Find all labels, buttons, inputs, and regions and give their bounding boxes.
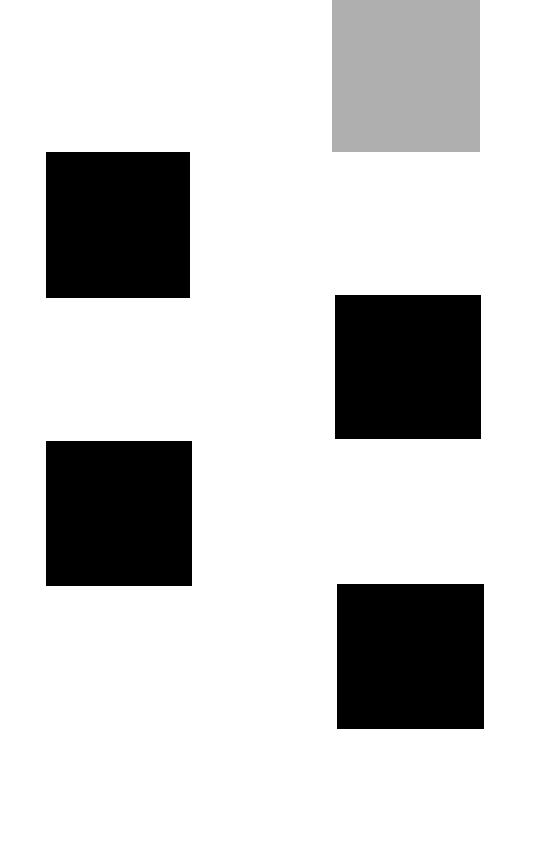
image-tile-2[interactable] [46, 152, 190, 298]
image-tile-5[interactable] [337, 584, 484, 729]
image-grid [0, 0, 536, 848]
image-tile-3[interactable] [335, 295, 481, 439]
image-tile-1[interactable] [332, 0, 480, 152]
image-tile-4[interactable] [46, 441, 192, 586]
